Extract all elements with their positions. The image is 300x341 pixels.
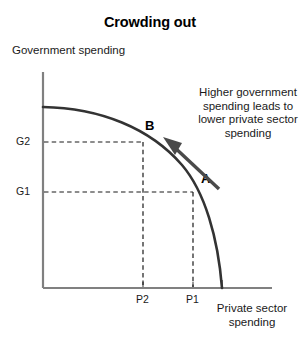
shift-arrow [163,137,219,189]
guide-lines [44,142,193,287]
axes [43,72,272,288]
crowding-out-chart: Crowding out Government spending Private… [0,0,300,341]
x-axis-ticks [143,280,222,288]
ppf-curve [43,107,222,288]
plot-area [0,0,300,341]
